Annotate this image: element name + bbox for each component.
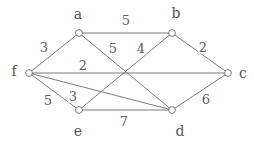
- edge-layer: [32, 33, 226, 110]
- edge-weight-e-d: 7: [119, 115, 129, 128]
- edge-weight-b-e: 4: [136, 42, 146, 55]
- edge-weight-f-d: 3: [68, 90, 78, 103]
- node-label-a: a: [74, 7, 82, 21]
- edge-weight-d-c: 6: [201, 93, 211, 106]
- graph-node-b: [169, 30, 176, 37]
- edge-weight-f-e: 5: [43, 94, 53, 107]
- edge-weight-b-c: 2: [198, 41, 208, 54]
- node-label-e: e: [74, 124, 82, 138]
- node-label-c: c: [239, 66, 247, 80]
- edge-weight-a-b: 5: [121, 14, 131, 27]
- node-label-d: d: [176, 124, 185, 138]
- graph-node-c: [225, 70, 232, 77]
- node-label-f: f: [11, 64, 16, 78]
- edge-weight-f-a: 3: [39, 41, 49, 54]
- edge-weight-f-c: 2: [78, 59, 88, 72]
- node-label-b: b: [172, 6, 181, 20]
- graph-node-f: [26, 70, 33, 77]
- graph-node-a: [76, 30, 83, 37]
- graph-node-e: [76, 107, 83, 114]
- edge-weight-a-d: 5: [108, 42, 118, 55]
- graph-node-d: [169, 107, 176, 114]
- graph-diagram: 5354225376abcdef: [0, 0, 254, 145]
